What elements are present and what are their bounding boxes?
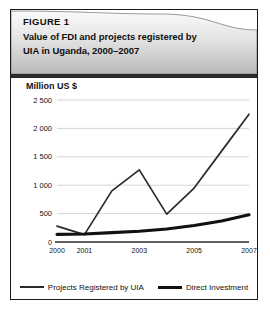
legend-swatch-thin-line-icon (20, 286, 44, 288)
y-tick-label: 500 (39, 209, 52, 218)
legend-swatch-thick-line-icon (158, 286, 182, 289)
legend-label-projects-registered: Projects Registered by UIA (48, 283, 144, 292)
figure-title-line-1: Value of FDI and projects registered by (23, 30, 249, 44)
figure-label: FIGURE 1 (23, 16, 249, 27)
y-axis-zero-label: 0 (48, 239, 52, 246)
figure-header: FIGURE 1 Value of FDI and projects regis… (11, 10, 257, 74)
line-chart-plot: 2 5002 0001 5001 000500 2000200120032005… (11, 78, 257, 269)
figure-title-line-2: UIA in Uganda, 2000–2007 (23, 44, 249, 58)
legend-entry-projects-registered: Projects Registered by UIA (20, 283, 144, 292)
x-tick-labels-group: 20002001200320052007 (49, 247, 257, 254)
x-tick-label: 2007 (241, 247, 257, 254)
y-tick-labels-group: 2 5002 0001 5001 000500 (33, 96, 52, 219)
legend-entry-direct-investment: Direct Investment (158, 283, 248, 292)
x-tick-label: 2000 (49, 247, 65, 254)
x-tick-label: 2001 (77, 247, 93, 254)
series-line-projects-registered (57, 114, 249, 234)
x-tick-label: 2003 (131, 247, 147, 254)
y-tick-label: 1 500 (33, 152, 52, 161)
chart-legend: Projects Registered by UIA Direct Invest… (11, 275, 257, 299)
figure-container: FIGURE 1 Value of FDI and projects regis… (10, 9, 258, 300)
y-tick-label: 2 500 (33, 96, 52, 105)
legend-label-direct-investment: Direct Investment (186, 283, 248, 292)
y-tick-label: 2 000 (33, 124, 52, 133)
x-tick-label: 2005 (186, 247, 202, 254)
y-tick-label: 1 000 (33, 181, 52, 190)
gridlines-group (57, 100, 249, 214)
figure-header-text: FIGURE 1 Value of FDI and projects regis… (23, 16, 249, 57)
chart-area: Million US $ 2 5002 0001 5001 000500 200… (11, 78, 257, 269)
